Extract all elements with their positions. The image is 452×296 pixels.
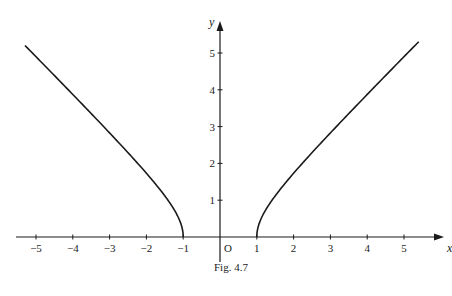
x-axis-label: x bbox=[446, 241, 452, 255]
x-tick-label: −3 bbox=[104, 242, 116, 254]
origin-label: O bbox=[224, 242, 232, 254]
y-axis-arrow-icon bbox=[217, 21, 224, 31]
curve-right-branch bbox=[257, 42, 419, 237]
x-tick-label: −5 bbox=[30, 242, 42, 254]
x-tick-label: −1 bbox=[177, 242, 189, 254]
x-tick-label: 5 bbox=[401, 242, 407, 254]
y-axis-label: y bbox=[208, 15, 215, 29]
x-axis-arrow-icon bbox=[434, 234, 444, 241]
y-tick-label: 4 bbox=[210, 84, 216, 96]
y-tick-label: 2 bbox=[210, 157, 216, 169]
x-tick-label: 1 bbox=[254, 242, 260, 254]
y-tick-label: 1 bbox=[210, 194, 216, 206]
x-tick-label: 4 bbox=[364, 242, 370, 254]
y-tick-label: 5 bbox=[210, 47, 216, 59]
x-tick-label: 2 bbox=[291, 242, 297, 254]
x-tick-label: −2 bbox=[141, 242, 153, 254]
x-tick-label: −4 bbox=[67, 242, 79, 254]
curve-left-branch bbox=[25, 45, 183, 237]
x-tick-label: 3 bbox=[328, 242, 334, 254]
chart-figure: −5−4−3−2−112345 12345 x y O Fig. 4.7 bbox=[0, 0, 452, 296]
figure-caption: Fig. 4.7 bbox=[214, 261, 248, 273]
y-tick-label: 3 bbox=[210, 121, 216, 133]
